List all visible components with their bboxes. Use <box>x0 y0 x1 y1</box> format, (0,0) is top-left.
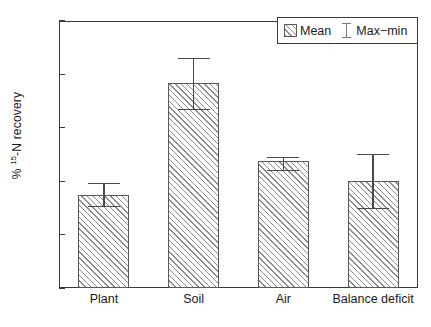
bar <box>168 83 219 288</box>
error-bar-icon <box>341 23 352 38</box>
y-tick-mark <box>59 127 65 128</box>
legend-entry-mean: Mean <box>284 24 331 38</box>
x-tick-label: Balance deficit <box>303 292 431 306</box>
legend-label-mean: Mean <box>300 24 331 38</box>
bar-group <box>168 21 219 288</box>
y-axis-label-suffix: -N recovery <box>10 92 24 156</box>
y-tick-mark <box>59 20 65 21</box>
bar <box>258 161 309 288</box>
y-tick-mark <box>59 287 65 288</box>
bar-group <box>348 21 399 288</box>
y-axis-label: % 15-N recovery <box>9 56 24 216</box>
legend-label-maxmin: Max−min <box>356 24 407 38</box>
hatched-square-icon <box>284 24 297 37</box>
bar-chart: % 15-N recovery 50403020100 PlantSoilAir… <box>0 0 431 327</box>
y-axis-label-superscript: 15 <box>9 156 18 165</box>
y-tick-mark <box>59 74 65 75</box>
bar-group <box>78 21 129 288</box>
legend-entry-maxmin: Max−min <box>341 23 407 38</box>
y-tick-mark <box>59 181 65 182</box>
y-axis-label-prefix: % <box>10 165 24 179</box>
chart-legend: Mean Max−min <box>277 17 418 44</box>
y-tick-mark <box>59 234 65 235</box>
bar <box>78 195 129 288</box>
bar-group <box>258 21 309 288</box>
